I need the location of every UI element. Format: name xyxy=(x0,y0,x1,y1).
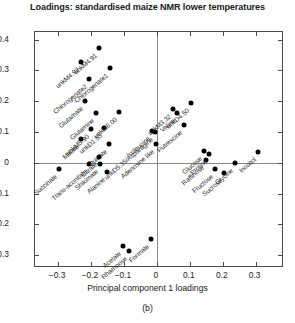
data-point xyxy=(116,110,121,115)
data-point xyxy=(107,66,112,71)
x-axis-tick-label: −0.2 xyxy=(82,270,99,280)
x-axis-tick-label: 0.3 xyxy=(249,270,261,280)
x-axis-tick-label: 0.1 xyxy=(183,270,195,280)
x-axis-tick xyxy=(124,32,125,36)
data-point xyxy=(93,110,98,115)
figure-panel: Loadings: standardised maize NMR lower t… xyxy=(0,0,295,323)
y-axis-tick xyxy=(278,40,282,41)
y-axis-tick xyxy=(278,224,282,225)
data-point xyxy=(201,149,206,154)
data-point xyxy=(189,100,194,105)
y-axis-tick xyxy=(278,194,282,195)
data-point xyxy=(206,151,211,156)
y-axis-tick xyxy=(35,70,39,71)
x-axis-tick xyxy=(91,32,92,36)
y-axis-tick xyxy=(278,132,282,133)
y-axis-tick-label: −0.2 xyxy=(0,218,9,228)
data-point xyxy=(256,149,261,154)
data-point xyxy=(127,248,132,253)
y-axis-tick-label: 0 xyxy=(4,157,9,167)
x-axis-tick xyxy=(58,32,59,36)
x-axis-title: Principal component 1 loadings xyxy=(0,283,295,293)
x-axis-tick xyxy=(190,32,191,36)
y-axis-tick xyxy=(278,255,282,256)
y-axis-tick-label: −0.1 xyxy=(0,188,9,198)
x-axis-tick xyxy=(256,262,257,266)
figure-caption: (b) xyxy=(0,303,295,313)
y-axis-tick xyxy=(35,101,39,102)
data-point-label: Putrescine xyxy=(156,128,184,153)
x-axis-tick xyxy=(256,32,257,36)
y-axis-tick xyxy=(278,101,282,102)
x-axis-tick xyxy=(91,262,92,266)
y-axis-tick-label: 0.2 xyxy=(0,95,9,105)
data-point xyxy=(106,142,111,147)
y-axis-tick xyxy=(35,255,39,256)
chart-title: Loadings: standardised maize NMR lower t… xyxy=(0,2,295,12)
x-axis-tick-label: 0.2 xyxy=(216,270,228,280)
data-point xyxy=(88,126,93,131)
data-point xyxy=(96,46,101,51)
data-point xyxy=(149,236,154,241)
y-axis-tick-label: 0.4 xyxy=(0,34,9,44)
x-axis-tick xyxy=(157,262,158,266)
data-point xyxy=(79,136,84,141)
data-point-label: Formate xyxy=(128,242,151,263)
y-axis-tick xyxy=(35,132,39,133)
y-axis-tick xyxy=(35,224,39,225)
x-axis-tick xyxy=(190,262,191,266)
x-axis-tick-label: 0 xyxy=(154,270,159,280)
x-axis-tick xyxy=(223,32,224,36)
data-point-label: unkM4.91 xyxy=(72,52,98,75)
data-point xyxy=(120,243,125,248)
x-axis-tick xyxy=(223,262,224,266)
y-axis-tick xyxy=(35,40,39,41)
plot-area: unkM4.92unkM4.91Chlorogenate2Chlorogenat… xyxy=(34,31,283,267)
data-point-label: Inositol xyxy=(238,156,258,174)
data-point xyxy=(83,98,88,103)
y-axis-tick xyxy=(278,163,282,164)
y-axis-tick xyxy=(278,70,282,71)
data-point-label: Malate xyxy=(61,143,80,161)
data-point xyxy=(57,167,62,172)
y-axis-tick xyxy=(35,163,39,164)
data-point xyxy=(97,162,102,167)
y-axis-tick-label: −0.3 xyxy=(0,249,9,259)
data-point-label: unkM6.00 xyxy=(92,116,118,139)
data-point xyxy=(87,77,92,82)
data-point xyxy=(233,161,238,166)
x-axis-tick xyxy=(157,32,158,36)
data-point xyxy=(96,155,101,160)
x-axis-tick-label: −0.3 xyxy=(49,270,66,280)
x-axis-tick-label: −0.1 xyxy=(115,270,132,280)
y-axis-tick-label: 0.3 xyxy=(0,64,9,74)
data-point xyxy=(212,166,217,171)
x-axis-tick xyxy=(58,262,59,266)
y-axis-tick-label: 0.1 xyxy=(0,126,9,136)
data-point xyxy=(181,122,186,127)
